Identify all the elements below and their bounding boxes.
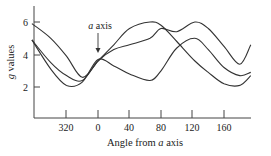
x-tick-label: 80 — [156, 122, 166, 133]
x-axis-label: Angle from a axis — [107, 137, 183, 148]
arrow-icon — [96, 33, 101, 53]
curve-3-line — [32, 38, 251, 86]
curve-1-line — [32, 22, 251, 86]
x-tick-label: 0 — [96, 122, 101, 133]
y-tick-label: 4 — [23, 50, 28, 61]
x-ticks: 320 0 40 80 120 160 — [59, 110, 232, 133]
x-tick-label: 160 — [217, 122, 232, 133]
x-tick-label: 40 — [124, 122, 134, 133]
curves — [32, 22, 251, 87]
y-tick-label: 6 — [23, 17, 28, 28]
x-tick-label: 120 — [185, 122, 200, 133]
curve-2-line — [32, 22, 251, 81]
y-tick-label: 2 — [23, 82, 28, 93]
g-values-chart: 6 4 2 320 0 40 80 120 160 g values Angle… — [0, 0, 271, 156]
a-axis-annotation: a axis — [88, 20, 112, 31]
y-axis-label: g values — [5, 45, 16, 80]
x-tick-label: 320 — [59, 122, 74, 133]
